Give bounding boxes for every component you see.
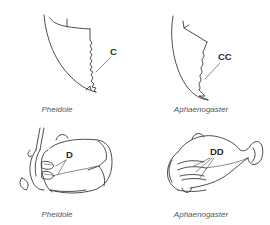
caption-pheidole-mandible: Pheidole: [41, 106, 72, 114]
label-c: C: [110, 47, 117, 57]
caption-aphaenogaster-head: Aphaenogaster: [174, 211, 228, 219]
caption-aphaenogaster-mandible: Aphaenogaster: [174, 106, 228, 114]
aphaenogaster-mandible-drawing: [172, 16, 220, 100]
label-cc: CC: [218, 52, 232, 62]
label-d: D: [66, 150, 73, 160]
label-dd: DD: [210, 147, 224, 157]
comparison-figure: C CC D DD Pheidole Aphaenogaster Pheidol…: [0, 0, 270, 225]
caption-pheidole-head: Pheidole: [41, 211, 72, 219]
aphaenogaster-head-drawing: [167, 133, 262, 192]
pheidole-mandible-drawing: [44, 15, 110, 92]
pheidole-head-drawing: [20, 128, 112, 193]
